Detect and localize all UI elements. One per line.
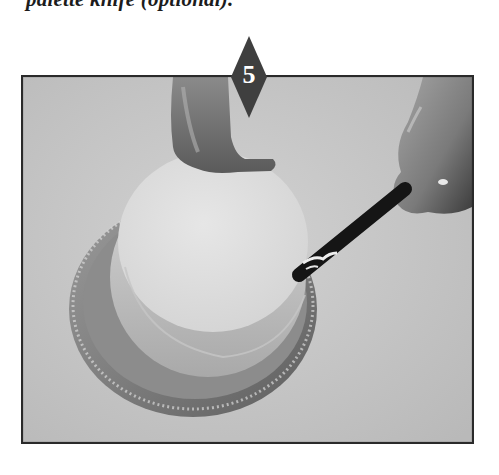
ring — [438, 179, 448, 185]
cake-top — [118, 152, 308, 332]
instruction-caption: palette knife (optional). — [26, 0, 233, 12]
cake — [110, 152, 308, 377]
step-photo — [21, 75, 474, 444]
step-number-badge: 5 — [231, 36, 267, 118]
step-number: 5 — [231, 60, 267, 90]
